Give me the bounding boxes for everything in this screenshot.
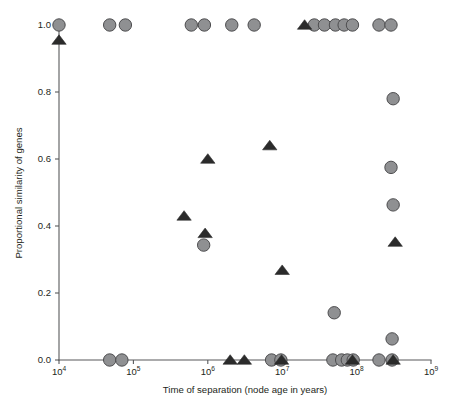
- data-point-triangle: [388, 237, 402, 247]
- x-tick-base: 10: [275, 366, 286, 377]
- data-point-circle: [248, 19, 260, 31]
- data-point-circle: [197, 239, 209, 251]
- data-point-circle: [328, 307, 340, 319]
- data-point-circle: [373, 354, 385, 366]
- y-tick-label: 0.2: [38, 287, 51, 298]
- data-point-circle: [119, 19, 131, 31]
- data-point-circle: [386, 333, 398, 345]
- x-tick-exponent: 5: [137, 365, 141, 372]
- x-tick-exponent: 7: [286, 365, 290, 372]
- data-point-triangle: [263, 140, 277, 150]
- data-point-circle: [103, 354, 115, 366]
- data-point-circle: [103, 19, 115, 31]
- data-point-circle: [346, 19, 358, 31]
- y-tick-label: 0.8: [38, 86, 51, 97]
- axes: [59, 25, 431, 360]
- x-tick-base: 10: [52, 366, 63, 377]
- y-tick-label: 0.6: [38, 153, 51, 164]
- data-point-triangle: [275, 265, 289, 275]
- data-point-circle: [226, 19, 238, 31]
- data-point-circle: [116, 354, 128, 366]
- x-tick-label: 104: [52, 365, 67, 377]
- data-point-triangle: [177, 211, 191, 221]
- data-point-triangle: [198, 228, 212, 238]
- figure-container: 0.00.20.40.60.81.0 104105106107108109 Ti…: [0, 0, 459, 414]
- y-axis-ticks: 0.00.20.40.60.81.0: [38, 19, 59, 365]
- x-tick-label: 109: [424, 365, 439, 377]
- x-tick-exponent: 6: [211, 365, 215, 372]
- x-tick-label: 107: [275, 365, 290, 377]
- data-point-circle: [387, 199, 399, 211]
- data-point-circle: [53, 19, 65, 31]
- scatter-plot: 0.00.20.40.60.81.0 104105106107108109 Ti…: [0, 0, 459, 414]
- x-tick-base: 10: [424, 366, 435, 377]
- x-tick-base: 10: [201, 366, 212, 377]
- x-tick-exponent: 9: [434, 365, 438, 372]
- x-tick-label: 105: [126, 365, 141, 377]
- data-point-circle: [198, 19, 210, 31]
- data-point-circle: [385, 161, 397, 173]
- y-axis-title: Proportional similarity of genes: [13, 127, 24, 258]
- data-point-triangle: [201, 154, 215, 164]
- data-point-circle: [185, 19, 197, 31]
- x-tick-exponent: 8: [360, 365, 364, 372]
- y-tick-label: 0.4: [38, 220, 51, 231]
- x-tick-label: 108: [349, 365, 364, 377]
- x-tick-exponent: 4: [62, 365, 66, 372]
- x-tick-base: 10: [349, 366, 360, 377]
- data-point-triangle: [52, 35, 66, 45]
- x-axis-title: Time of separation (node age in years): [163, 384, 327, 395]
- y-tick-label: 1.0: [38, 19, 51, 30]
- data-point-circle: [387, 93, 399, 105]
- x-tick-label: 106: [201, 365, 216, 377]
- x-tick-base: 10: [126, 366, 137, 377]
- y-tick-label: 0.0: [38, 354, 51, 365]
- data-point-circle: [385, 19, 397, 31]
- data-point-circle: [373, 19, 385, 31]
- data-markers: [52, 19, 403, 366]
